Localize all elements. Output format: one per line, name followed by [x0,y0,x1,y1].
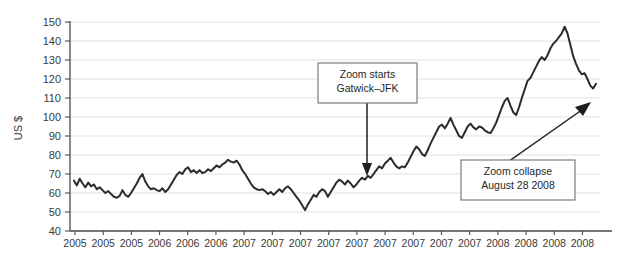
annotation-line2-zoom-starts: Gatwick–JFK [337,82,399,94]
x-tick-label: 2007 [458,237,482,249]
annotation-zoom-starts: Zoom starts Gatwick–JFK [318,63,417,176]
y-tick-label: 130 [43,54,61,66]
line-chart-svg: 405060708090100110120130140150 200520052… [0,0,627,257]
x-tick-label: 2007 [232,237,256,249]
x-tick-label: 2008 [514,237,538,249]
y-tick-label: 50 [49,206,61,218]
x-tick-label: 2007 [317,237,341,249]
x-tick-label: 2007 [402,237,426,249]
chart-figure: 405060708090100110120130140150 200520052… [0,0,627,257]
y-tick-label: 140 [43,35,61,47]
x-tick-label: 2007 [373,237,397,249]
y-tick-label: 40 [49,225,61,237]
y-tick-label: 80 [49,149,61,161]
x-tick-label: 2008 [571,237,595,249]
y-axis-title: US $ [12,116,24,140]
y-tick-label: 60 [49,187,61,199]
y-tick-label: 70 [49,168,61,180]
y-tick-label: 90 [49,130,61,142]
x-tick-label: 2007 [261,237,285,249]
y-axis-ticks-group [65,22,70,231]
x-tick-label: 2006 [176,237,200,249]
x-tick-label: 2006 [204,237,228,249]
x-tick-label: 2008 [543,237,567,249]
x-tick-label: 2007 [289,237,313,249]
x-tick-label: 2007 [430,237,454,249]
x-tick-label: 2008 [486,237,510,249]
x-tick-label: 2006 [148,237,172,249]
x-tick-label: 2005 [92,237,116,249]
annotation-line1-zoom-starts: Zoom starts [340,68,395,80]
x-tick-label: 2005 [120,237,144,249]
y-tick-label: 120 [43,73,61,85]
y-tick-label: 110 [43,92,61,104]
y-axis-tick-labels: 405060708090100110120130140150 [43,16,61,237]
annotation-line2-zoom-collapse: August 28 2008 [481,179,555,191]
y-tick-label: 100 [43,111,61,123]
x-tick-label: 2007 [345,237,369,249]
annotation-line1-zoom-collapse: Zoom collapse [484,165,552,177]
x-axis-tick-labels: 2005200520052006200620062007200720072007… [63,237,594,249]
y-tick-label: 150 [43,16,61,28]
x-tick-label: 2005 [63,237,87,249]
